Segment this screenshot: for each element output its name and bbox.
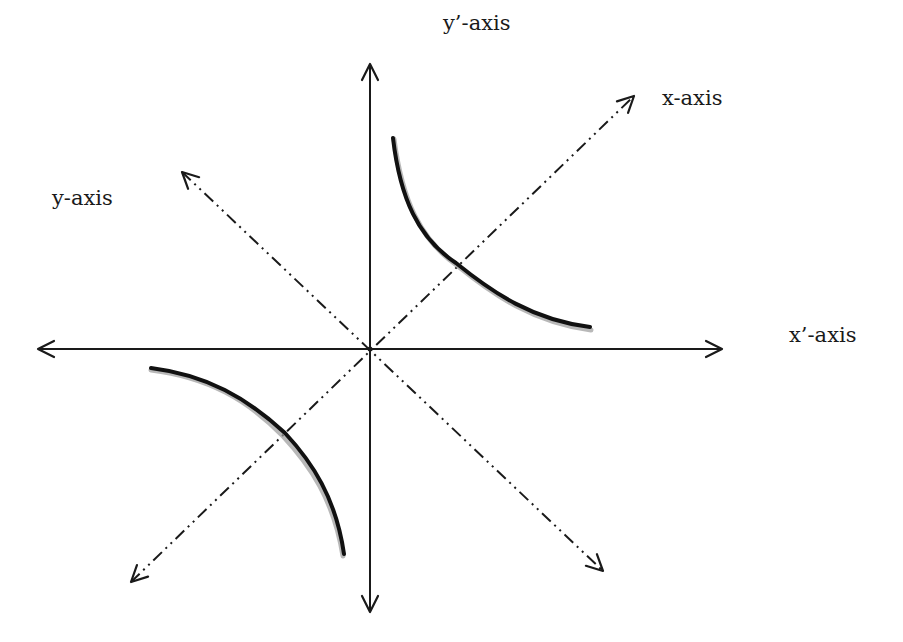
y-axis-label: y-axis	[52, 188, 113, 209]
y-axis-dashed-line	[182, 172, 603, 571]
rectangular-hyperbola-diagram	[0, 0, 903, 642]
hyperbola-branch-lower-left	[151, 368, 344, 556]
x-axis-label: x-axis	[662, 88, 722, 109]
x-prime-axis-label: x’-axis	[789, 325, 856, 346]
y-prime-axis-label: y’-axis	[443, 13, 511, 34]
origin-point	[368, 347, 373, 352]
x-axis-dashed-line	[131, 96, 634, 582]
